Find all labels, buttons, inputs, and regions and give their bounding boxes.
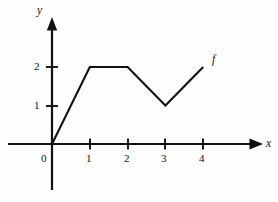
y-tick-label-2: 2 bbox=[34, 61, 40, 72]
x-tick-label-1: 1 bbox=[86, 153, 92, 164]
curve-label-f: f bbox=[212, 54, 215, 66]
x-axis-arrowhead bbox=[250, 139, 264, 150]
x-tick-label-2: 2 bbox=[124, 153, 130, 164]
x-tick-label-3: 3 bbox=[161, 153, 167, 164]
y-axis-label: y bbox=[37, 5, 42, 17]
y-tick-label-1: 1 bbox=[34, 100, 40, 111]
x-tick-label-4: 4 bbox=[199, 153, 205, 164]
coordinate-plane bbox=[0, 0, 278, 202]
origin-label: 0 bbox=[41, 153, 47, 164]
y-axis-arrowhead bbox=[47, 17, 57, 31]
graph-figure: y x f 0 2 1 1 2 3 4 bbox=[0, 0, 278, 202]
x-axis-label: x bbox=[266, 138, 271, 150]
function-curve-f bbox=[52, 67, 203, 144]
